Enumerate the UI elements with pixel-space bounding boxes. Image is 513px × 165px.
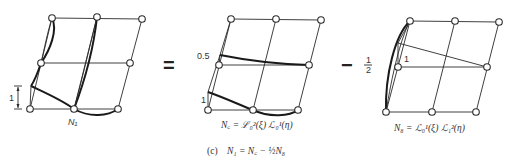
node bbox=[27, 106, 34, 113]
node bbox=[115, 106, 122, 113]
node-label-n1: N₁ bbox=[68, 117, 77, 127]
node bbox=[295, 107, 302, 114]
node bbox=[429, 109, 436, 116]
node bbox=[452, 18, 459, 25]
value-label-one: 1 bbox=[201, 95, 206, 105]
node bbox=[127, 60, 134, 67]
node bbox=[383, 109, 390, 116]
shape-edge bbox=[220, 19, 231, 55]
caption-label: (c) bbox=[207, 146, 218, 157]
node bbox=[216, 62, 223, 69]
node bbox=[94, 14, 101, 21]
fraction-numerator: 1 bbox=[366, 55, 371, 65]
shape-curve-thin bbox=[41, 18, 52, 63]
node bbox=[38, 60, 45, 67]
shape-curve bbox=[74, 109, 118, 115]
caption-equation: N₁ = N꜀ − ½N₈ bbox=[226, 146, 285, 156]
formula-n8: N₈ = ℒ₀¹(ξ) ℒ₁²(η) bbox=[393, 123, 465, 134]
node bbox=[250, 107, 257, 114]
node bbox=[407, 18, 414, 25]
value-label-half: 0.5 bbox=[197, 51, 210, 61]
node bbox=[484, 64, 491, 71]
node bbox=[49, 15, 56, 22]
panel-n8: 1 N₈ = ℒ₀¹(ξ) ℒ₁²(η) bbox=[383, 18, 503, 134]
minus-sign: − bbox=[341, 54, 353, 76]
node bbox=[318, 17, 325, 24]
panel-n1: 1 N₁ bbox=[9, 14, 145, 127]
minus-half-operator: − 1 2 bbox=[341, 54, 372, 76]
dimension-label: 1 bbox=[9, 93, 14, 103]
node bbox=[473, 109, 480, 116]
node bbox=[496, 19, 503, 26]
node bbox=[139, 16, 146, 23]
node bbox=[273, 16, 280, 23]
equals-sign: = bbox=[163, 54, 175, 76]
shape-line bbox=[398, 43, 487, 67]
node bbox=[306, 62, 313, 69]
arrow-up-icon bbox=[17, 87, 20, 91]
node bbox=[205, 107, 212, 114]
panel-nc: 0.5 1 N꜀ = ℒ₀²(ξ) ℒ₀¹(η) bbox=[197, 16, 324, 131]
shape-curve bbox=[31, 86, 74, 109]
fraction-denominator: 2 bbox=[366, 65, 371, 75]
formula-nc: N꜀ = ℒ₀²(ξ) ℒ₀¹(η) bbox=[220, 120, 293, 131]
node bbox=[228, 16, 235, 23]
shape-function-figure: 1 N₁ = 0.5 1 bbox=[0, 0, 513, 165]
value-label-one: 1 bbox=[404, 54, 409, 64]
node bbox=[395, 64, 402, 71]
node-n1 bbox=[71, 106, 78, 113]
arrow-down-icon bbox=[17, 104, 20, 108]
mid-vertical-line bbox=[432, 21, 455, 112]
mid-vertical-line bbox=[253, 19, 276, 110]
